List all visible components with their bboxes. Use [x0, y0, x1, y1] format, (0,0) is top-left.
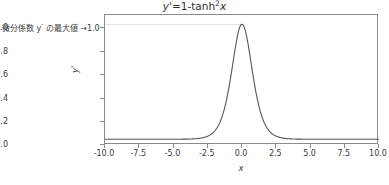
y-tick-label-1: 0.2 — [0, 118, 8, 126]
curve-svg — [105, 15, 379, 145]
title-eq: =1-tanh — [172, 0, 215, 12]
sech-squared-curve — [105, 24, 379, 139]
title-var: x — [220, 0, 226, 12]
chart-figure: y'=1-tanh2x 微分係数 y′ の最大値 →1.0 y' 0.0 0.2… — [0, 0, 389, 185]
y-tick-label-4: 0.8 — [0, 48, 8, 56]
plot-area — [104, 14, 378, 144]
y-tick-label-2: 0.4 — [0, 95, 8, 103]
x-tick-label-8: 10.0 — [358, 150, 389, 158]
chart-title: y'=1-tanh2x — [0, 0, 389, 13]
y-tick-label-5: 1.0 — [0, 24, 8, 32]
y-tick-label-3: 0.6 — [0, 71, 8, 79]
max-value-annotation: 微分係数 y′ の最大値 →1.0 — [2, 24, 100, 34]
y-tick-label-0: 0.0 — [0, 141, 8, 149]
title-lhs: y' — [163, 0, 172, 12]
y-axis-label: y' — [70, 66, 80, 73]
x-axis-label: x — [104, 163, 378, 173]
